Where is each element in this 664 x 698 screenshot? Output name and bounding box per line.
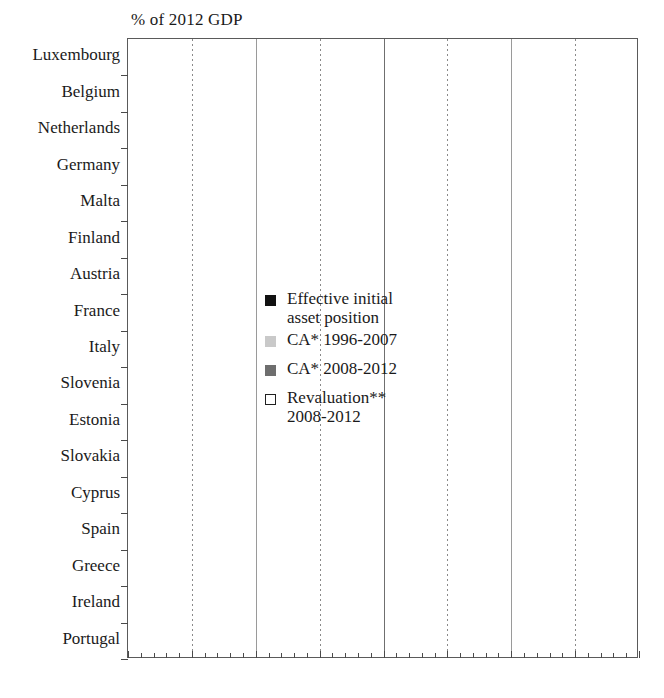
x-axis-tick-major (192, 651, 193, 658)
x-axis-tick-minor (550, 653, 551, 658)
category-label-italy: Italy (0, 337, 120, 357)
gridline-dotted (575, 39, 576, 657)
legend-label-revaluation-line1: Revaluation** (287, 388, 386, 407)
x-axis-tick-minor (498, 653, 499, 658)
y-axis-tick (121, 440, 128, 441)
x-axis-tick-minor (396, 653, 397, 658)
x-axis-tick-minor (537, 653, 538, 658)
legend-label-revaluation-line2: 2008-2012 (287, 407, 361, 426)
x-axis-tick-minor (422, 653, 423, 658)
category-label-slovakia: Slovakia (0, 446, 120, 466)
legend-label-ca1: CA* 1996-2007 (287, 330, 480, 349)
plot-area: Effective initial asset position CA* 199… (127, 38, 638, 658)
legend-item-ca2: CA* 2008-2012 (265, 359, 480, 385)
x-axis-tick-minor (205, 653, 206, 658)
chart-legend: Effective initial asset position CA* 199… (265, 289, 480, 429)
category-label-belgium: Belgium (0, 82, 120, 102)
x-axis-tick-major (639, 651, 640, 658)
y-axis-tick (121, 477, 128, 478)
gridline-solid (511, 39, 512, 657)
legend-swatch-initial-icon (265, 295, 276, 306)
x-axis-tick-minor (626, 653, 627, 658)
y-axis-tick (121, 659, 128, 660)
gridline-dotted (192, 39, 193, 657)
legend-item-initial: Effective initial asset position (265, 289, 480, 327)
y-axis-tick (121, 294, 128, 295)
category-label-austria: Austria (0, 264, 120, 284)
category-label-germany: Germany (0, 155, 120, 175)
x-axis-tick-minor (307, 653, 308, 658)
legend-label-initial-line1: Effective initial (287, 289, 393, 308)
x-axis-tick-minor (601, 653, 602, 658)
y-axis-tick (121, 258, 128, 259)
y-axis-tick (121, 623, 128, 624)
x-axis-tick-minor (230, 653, 231, 658)
legend-item-ca1: CA* 1996-2007 (265, 330, 480, 356)
x-axis-tick-major (384, 651, 385, 658)
x-axis-tick-minor (371, 653, 372, 658)
chart-root: % of 2012 GDP LuxembourgBelgiumNetherlan… (0, 0, 664, 698)
x-axis-tick-minor (524, 653, 525, 658)
x-axis-tick-minor (294, 653, 295, 658)
x-axis-tick-minor (281, 653, 282, 658)
category-label-cyprus: Cyprus (0, 483, 120, 503)
category-label-malta: Malta (0, 191, 120, 211)
gridline-solid (256, 39, 257, 657)
x-axis-tick-minor (217, 653, 218, 658)
x-axis-tick-minor (179, 653, 180, 658)
legend-label-initial-line2: asset position (287, 308, 379, 327)
y-axis-tick (121, 550, 128, 551)
category-label-finland: Finland (0, 228, 120, 248)
x-axis-tick-major (128, 651, 129, 658)
y-axis-tick (121, 148, 128, 149)
legend-swatch-ca2-icon (265, 365, 276, 376)
x-axis-tick-minor (460, 653, 461, 658)
x-axis-tick-minor (166, 653, 167, 658)
y-axis-tick (121, 331, 128, 332)
y-axis-tick (121, 367, 128, 368)
x-axis-tick-minor (588, 653, 589, 658)
x-axis-tick-minor (358, 653, 359, 658)
x-axis-tick-minor (435, 653, 436, 658)
legend-swatch-ca1-icon (265, 336, 276, 347)
category-label-france: France (0, 301, 120, 321)
x-axis-tick-major (447, 651, 448, 658)
chart-axis-title: % of 2012 GDP (131, 10, 243, 30)
y-axis-tick (121, 185, 128, 186)
x-axis-tick-major (256, 651, 257, 658)
y-axis-tick (121, 404, 128, 405)
category-label-luxembourg: Luxembourg (0, 45, 120, 65)
x-axis-tick-major (320, 651, 321, 658)
x-axis-tick-minor (332, 653, 333, 658)
category-label-spain: Spain (0, 519, 120, 539)
category-label-slovenia: Slovenia (0, 373, 120, 393)
x-axis-tick-minor (141, 653, 142, 658)
x-axis-tick-minor (473, 653, 474, 658)
category-label-portugal: Portugal (0, 629, 120, 649)
x-axis-tick-minor (613, 653, 614, 658)
x-axis-tick-minor (562, 653, 563, 658)
x-axis-tick-major (575, 651, 576, 658)
y-axis-tick (121, 586, 128, 587)
category-label-greece: Greece (0, 556, 120, 576)
x-axis-tick-minor (269, 653, 270, 658)
category-label-ireland: Ireland (0, 592, 120, 612)
x-axis-tick-minor (409, 653, 410, 658)
legend-label-ca2: CA* 2008-2012 (287, 359, 480, 378)
legend-item-revaluation: Revaluation** 2008-2012 (265, 388, 480, 426)
x-axis-tick-minor (243, 653, 244, 658)
category-label-netherlands: Netherlands (0, 118, 120, 138)
x-axis-tick-minor (154, 653, 155, 658)
y-axis-tick (121, 513, 128, 514)
y-axis-tick (121, 112, 128, 113)
x-axis-tick-minor (345, 653, 346, 658)
legend-swatch-revaluation-icon (265, 394, 276, 405)
category-label-estonia: Estonia (0, 410, 120, 430)
x-axis-tick-minor (486, 653, 487, 658)
y-axis-tick (121, 75, 128, 76)
y-axis-tick (121, 221, 128, 222)
x-axis-tick-major (511, 651, 512, 658)
